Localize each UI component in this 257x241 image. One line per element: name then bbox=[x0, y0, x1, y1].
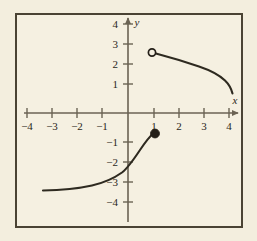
x-tick-label--4: −4 bbox=[21, 120, 33, 132]
y-tick-label-3: 3 bbox=[113, 38, 119, 50]
y-tick-label-4: 4 bbox=[113, 18, 119, 30]
x-tick-label-3: 3 bbox=[201, 120, 207, 132]
x-tick-label-2: 2 bbox=[176, 120, 182, 132]
y-tick-label-2: 2 bbox=[113, 58, 119, 70]
graph-figure: −4 −3 −2 −1 1 2 3 4 4 3 2 1 −1 −2 −3 −4 … bbox=[0, 0, 257, 241]
coordinate-plane: −4 −3 −2 −1 1 2 3 4 4 3 2 1 −1 −2 −3 −4 … bbox=[0, 0, 257, 241]
x-tick-label--3: −3 bbox=[46, 120, 58, 132]
y-tick-label-1: 1 bbox=[113, 78, 119, 90]
x-axis-label: x bbox=[232, 94, 238, 106]
x-tick-label--2: −2 bbox=[71, 120, 83, 132]
y-axis-label: y bbox=[134, 16, 140, 28]
y-tick-label--2: −2 bbox=[106, 156, 118, 168]
x-tick-label-4: 4 bbox=[226, 120, 232, 132]
curve-lower-branch bbox=[43, 133, 154, 191]
open-circle-marker bbox=[148, 49, 155, 56]
curve-upper-branch bbox=[155, 53, 233, 93]
y-tick-label--4: −4 bbox=[106, 196, 118, 208]
closed-circle-marker bbox=[151, 129, 160, 138]
y-tick-label--1: −1 bbox=[106, 136, 118, 148]
x-tick-label--1: −1 bbox=[96, 120, 108, 132]
